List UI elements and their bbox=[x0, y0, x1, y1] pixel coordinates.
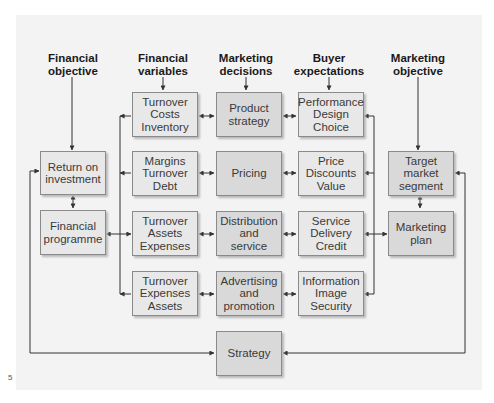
buyer-expectations-box-1: Performance Design Choice bbox=[298, 92, 364, 137]
heading-line: objective bbox=[393, 65, 443, 77]
box-line: Debt bbox=[153, 180, 177, 193]
box-line: Price bbox=[318, 155, 344, 168]
buyer-expectations-box-4: Information Image Security bbox=[298, 271, 364, 316]
box-line: and bbox=[239, 227, 258, 240]
heading-line: objective bbox=[48, 65, 98, 77]
pricing-box: Pricing bbox=[216, 151, 282, 196]
distribution-and-service-box: Distribution and service bbox=[216, 211, 282, 256]
box-line: segment bbox=[399, 180, 443, 193]
box-line: Information bbox=[302, 275, 360, 288]
heading-financial-variables: Financial variables bbox=[118, 52, 208, 78]
heading-line: Financial bbox=[138, 52, 188, 64]
box-line: and bbox=[239, 287, 258, 300]
box-line: Target bbox=[405, 155, 437, 168]
target-market-segment-box: Target market segment bbox=[388, 151, 454, 196]
box-line: Margins bbox=[145, 155, 186, 168]
box-line: service bbox=[231, 240, 267, 253]
box-line: Costs bbox=[150, 108, 179, 121]
box-line: Assets bbox=[148, 300, 183, 313]
heading-line: Buyer bbox=[313, 52, 346, 64]
marketing-plan-box: Marketing plan bbox=[388, 211, 454, 256]
heading-buyer-expectations: Buyer expectations bbox=[284, 52, 374, 78]
box-line: Expenses bbox=[140, 287, 191, 300]
box-line: investment bbox=[45, 173, 101, 186]
box-line: Turnover bbox=[142, 96, 188, 109]
box-line: Pricing bbox=[231, 167, 266, 180]
buyer-expectations-box-3: Service Delivery Credit bbox=[298, 211, 364, 256]
heading-marketing-objective: Marketing objective bbox=[373, 52, 463, 78]
box-line: plan bbox=[410, 234, 432, 247]
box-line: Credit bbox=[316, 240, 347, 253]
heading-line: decisions bbox=[219, 65, 272, 77]
box-line: Financial bbox=[50, 220, 96, 233]
box-line: Choice bbox=[313, 121, 349, 134]
heading-marketing-decisions: Marketing decisions bbox=[201, 52, 291, 78]
buyer-expectations-box-2: Price Discounts Value bbox=[298, 151, 364, 196]
box-line: Discounts bbox=[306, 167, 357, 180]
financial-variables-box-1: Turnover Costs Inventory bbox=[132, 92, 198, 137]
box-line: Performance bbox=[298, 96, 364, 109]
box-line: Turnover bbox=[142, 215, 188, 228]
box-line: Delivery bbox=[310, 227, 352, 240]
box-line: Design bbox=[313, 108, 349, 121]
heading-line: Financial bbox=[48, 52, 98, 64]
strategy-box: Strategy bbox=[216, 331, 282, 376]
financial-variables-box-2: Margins Turnover Debt bbox=[132, 151, 198, 196]
box-line: strategy bbox=[229, 115, 270, 128]
box-line: Marketing bbox=[396, 221, 447, 234]
box-line: Turnover bbox=[142, 275, 188, 288]
box-line: Product bbox=[229, 102, 269, 115]
box-line: Security bbox=[310, 300, 352, 313]
box-line: Turnover bbox=[142, 167, 188, 180]
return-on-investment-box: Return on investment bbox=[40, 151, 106, 195]
box-line: Distribution bbox=[220, 215, 278, 228]
box-line: Assets bbox=[148, 227, 183, 240]
heading-line: Marketing bbox=[219, 52, 273, 64]
box-line: Expenses bbox=[140, 240, 191, 253]
financial-variables-box-4: Turnover Expenses Assets bbox=[132, 271, 198, 316]
heading-line: Marketing bbox=[391, 52, 445, 64]
box-line: Service bbox=[312, 215, 350, 228]
box-line: programme bbox=[44, 233, 103, 246]
financial-variables-box-3: Turnover Assets Expenses bbox=[132, 211, 198, 256]
figure-mark: 5 bbox=[8, 373, 12, 382]
advertising-and-promotion-box: Advertising and promotion bbox=[216, 271, 282, 316]
box-line: promotion bbox=[223, 300, 274, 313]
box-line: Image bbox=[315, 287, 347, 300]
heading-financial-objective: Financial objective bbox=[28, 52, 118, 78]
heading-line: variables bbox=[138, 65, 188, 77]
box-line: Inventory bbox=[141, 121, 188, 134]
box-line: Strategy bbox=[228, 347, 271, 360]
box-line: Return on bbox=[48, 161, 99, 174]
box-line: market bbox=[403, 167, 438, 180]
product-strategy-box: Product strategy bbox=[216, 92, 282, 137]
box-line: Value bbox=[317, 180, 346, 193]
box-line: Advertising bbox=[221, 275, 278, 288]
heading-line: expectations bbox=[294, 65, 364, 77]
financial-programme-box: Financial programme bbox=[40, 210, 106, 255]
